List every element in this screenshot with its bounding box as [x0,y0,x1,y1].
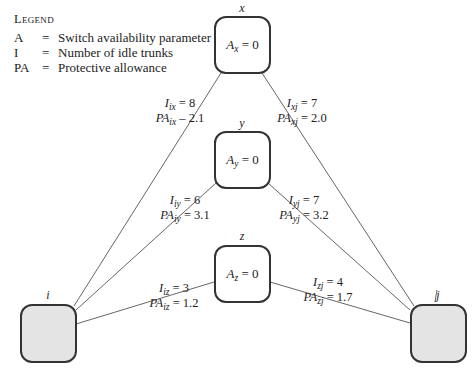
legend-row-pa: PA = Protective allowance [14,60,211,75]
node-x-label: x [232,1,252,16]
legend-title: Legend [14,12,211,27]
edge-zj-label: Izj = 4 PAzj = 1.7 [296,275,360,305]
node-x-value: Ax = 0 [226,37,259,53]
node-y: Ay = 0 [214,131,271,189]
legend-row-i: I = Number of idle trunks [14,45,211,60]
node-z: Az = 0 [214,245,271,303]
node-i [20,304,77,363]
node-y-value: Ay = 0 [226,152,259,168]
legend-row-a: A = Switch availability parameter [14,30,211,45]
node-z-value: Az = 0 [227,266,259,282]
legend: Legend A = Switch availability parameter… [14,12,211,75]
node-y-label: y [232,116,252,131]
edge-xj-label: Ixj = 7 PAxj = 2.0 [270,96,334,126]
edge-yj-label: Iyj = 7 PAyj = 3.2 [272,193,336,223]
node-z-label: z [232,229,252,244]
edge-iz-label: Iiz = 3 PAiz = 1.2 [144,281,204,311]
node-j-label: j [428,288,448,303]
edge-iy-label: Iiy = 6 PAiy = 3.1 [155,193,215,223]
node-i-label: i [38,288,58,303]
node-x: Ax = 0 [214,16,271,74]
edge-ix-label: Iix = 8 PAix – 2.1 [150,96,210,126]
node-j [410,304,467,363]
